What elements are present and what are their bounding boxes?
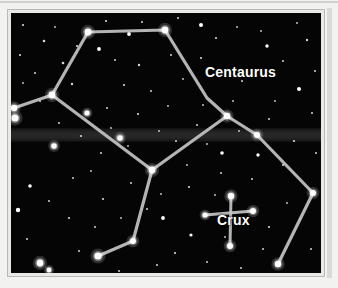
bright-star [297,87,301,91]
field-star [174,252,176,254]
field-star [54,26,56,28]
bright-star [220,151,224,155]
constellation-star [228,193,234,199]
field-star [22,82,24,84]
field-star [202,104,204,106]
constellation-star [149,167,156,174]
field-star [206,261,208,263]
field-star [146,208,148,210]
field-star [78,250,80,252]
constellation-star [227,243,233,249]
constellation-star [85,29,92,36]
constellation-star [275,261,281,267]
constellation-star [117,135,123,141]
constellation-star [250,208,256,214]
field-star [123,84,125,86]
field-star [105,20,107,22]
field-star [241,80,243,82]
constellation-star [202,212,207,217]
field-star [71,83,73,85]
field-star [137,113,139,115]
field-star [282,60,284,62]
constellation-svg [11,13,321,273]
field-star [102,198,104,200]
field-star [118,270,120,272]
field-star [268,118,270,120]
bright-star [28,184,32,188]
field-star [232,100,234,102]
field-star [114,59,116,61]
field-star [314,70,316,72]
constellation-star [254,132,260,138]
field-star [72,177,74,179]
constellation-star [11,105,17,111]
bright-star [47,268,52,273]
field-star [141,21,143,23]
field-star [120,217,122,219]
field-star [48,200,50,202]
field-star [106,107,108,109]
bright-star [189,233,192,236]
field-star [90,170,92,172]
field-star [220,172,222,174]
bright-star [37,260,44,267]
field-star [200,57,202,59]
field-star [19,54,21,56]
field-star [58,122,60,124]
field-star [224,236,226,238]
field-star [310,248,312,250]
field-star [251,178,253,180]
star-chart-figure: Centaurus Crux [0,0,338,288]
field-star [138,64,140,66]
field-star [214,194,216,196]
bright-star [256,153,259,156]
field-star [240,267,242,269]
right-edge-shade [327,8,332,278]
field-star [127,145,129,147]
field-star [206,143,208,145]
field-star [238,130,240,132]
milky-way-layer [11,133,321,137]
field-star [236,26,238,28]
field-star [186,164,188,166]
bright-star [265,44,268,47]
field-star [315,152,317,154]
field-star [260,30,262,32]
field-star [306,39,308,41]
field-star [100,152,102,154]
field-star [43,40,46,43]
field-star [34,72,36,74]
field-star [286,202,288,204]
bright-star [16,208,20,212]
field-star [130,182,132,184]
field-star [94,226,96,228]
bright-star [51,143,57,149]
field-star [175,140,177,142]
constellation-star [224,113,230,119]
field-star [196,124,198,126]
bright-star [97,47,101,51]
top-divider-rule [0,1,338,3]
field-star [110,127,112,129]
field-star [158,130,160,132]
constellation-line [230,196,231,246]
field-star [62,62,65,65]
field-star [311,112,313,114]
field-star [296,22,298,24]
bright-star [127,32,131,36]
constellation-star [310,190,316,196]
field-star [160,193,162,195]
constellation-star [94,252,101,259]
sky-star-field [11,13,321,273]
field-star [177,17,179,19]
constellation-star [49,92,56,99]
constellation-star [130,238,136,244]
constellation-star [162,27,169,34]
field-star [188,186,190,188]
field-star [268,226,270,228]
field-star [182,78,184,80]
field-star [26,238,28,240]
field-star [167,105,169,107]
field-star [156,264,158,266]
field-star [293,140,295,142]
